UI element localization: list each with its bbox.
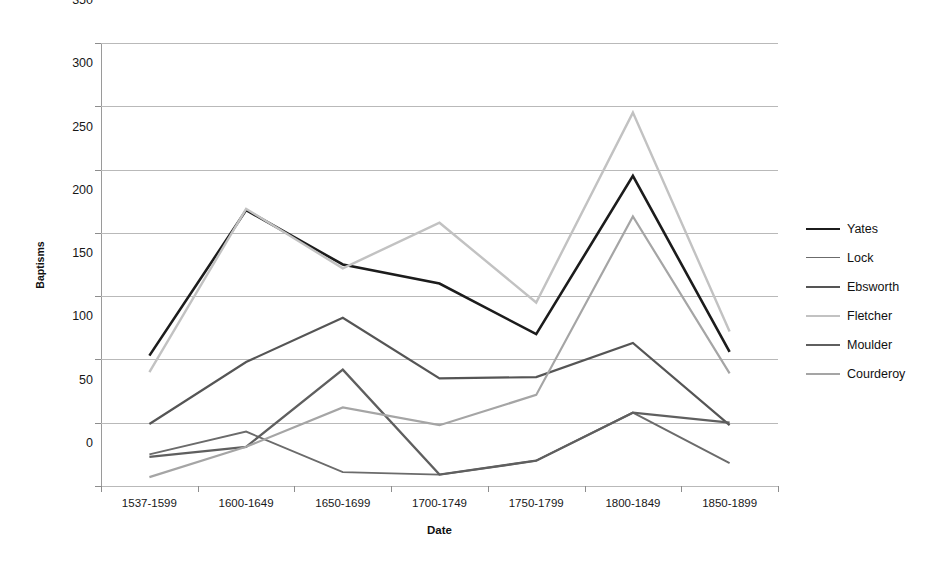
x-tick-mark xyxy=(391,486,392,492)
x-tick-label: 1850-1899 xyxy=(702,497,757,509)
legend-swatch-lock xyxy=(806,257,840,258)
y-axis-title: Baptisms xyxy=(34,241,46,288)
x-tick-mark xyxy=(198,486,199,492)
legend-swatch-fletcher xyxy=(806,315,840,317)
line-chart: 050100150200250300350 1537-15991600-1649… xyxy=(0,0,948,570)
y-tick-label: 250 xyxy=(72,120,93,134)
legend-label: Fletcher xyxy=(847,309,892,323)
legend-item-yates[interactable]: Yates xyxy=(806,214,946,243)
legend-swatch-ebsworth xyxy=(806,286,840,288)
x-axis-title: Date xyxy=(101,524,778,536)
y-tick-label: 300 xyxy=(72,56,93,70)
gridline xyxy=(101,486,778,487)
x-tick-label: 1800-1849 xyxy=(605,497,660,509)
plot-area xyxy=(101,43,778,486)
x-tick-mark xyxy=(101,486,102,492)
legend: YatesLockEbsworthFletcherMoulderCourdero… xyxy=(806,214,946,388)
x-tick-label: 1700-1749 xyxy=(412,497,467,509)
legend-label: Moulder xyxy=(847,338,892,352)
y-tick-label: 0 xyxy=(86,436,93,450)
legend-item-courderoy[interactable]: Courderoy xyxy=(806,359,946,388)
y-axis-ticks: 050100150200250300350 xyxy=(0,0,101,443)
gridline xyxy=(101,170,778,171)
legend-item-lock[interactable]: Lock xyxy=(806,243,946,272)
legend-swatch-moulder xyxy=(806,344,840,346)
x-tick-mark xyxy=(294,486,295,492)
legend-swatch-courderoy xyxy=(806,373,840,375)
gridline xyxy=(101,423,778,424)
x-tick-label: 1600-1649 xyxy=(219,497,274,509)
y-tick-label: 200 xyxy=(72,183,93,197)
y-tick-label: 50 xyxy=(79,373,93,387)
gridline xyxy=(101,359,778,360)
legend-item-ebsworth[interactable]: Ebsworth xyxy=(806,272,946,301)
x-tick-mark xyxy=(488,486,489,492)
x-tick-label: 1750-1799 xyxy=(509,497,564,509)
y-tick-label: 100 xyxy=(72,309,93,323)
x-tick-mark xyxy=(585,486,586,492)
legend-swatch-yates xyxy=(806,228,840,230)
x-tick-label: 1650-1699 xyxy=(315,497,370,509)
x-tick-mark xyxy=(681,486,682,492)
x-tick-mark xyxy=(778,486,779,492)
y-tick-label: 350 xyxy=(72,0,93,7)
legend-item-fletcher[interactable]: Fletcher xyxy=(806,301,946,330)
legend-label: Lock xyxy=(847,251,873,265)
x-tick-label: 1537-1599 xyxy=(122,497,177,509)
gridline xyxy=(101,106,778,107)
legend-label: Yates xyxy=(847,222,878,236)
legend-label: Courderoy xyxy=(847,367,905,381)
legend-label: Ebsworth xyxy=(847,280,899,294)
gridline xyxy=(101,233,778,234)
y-tick-label: 150 xyxy=(72,246,93,260)
gridline xyxy=(101,43,778,44)
gridline xyxy=(101,296,778,297)
legend-item-moulder[interactable]: Moulder xyxy=(806,330,946,359)
